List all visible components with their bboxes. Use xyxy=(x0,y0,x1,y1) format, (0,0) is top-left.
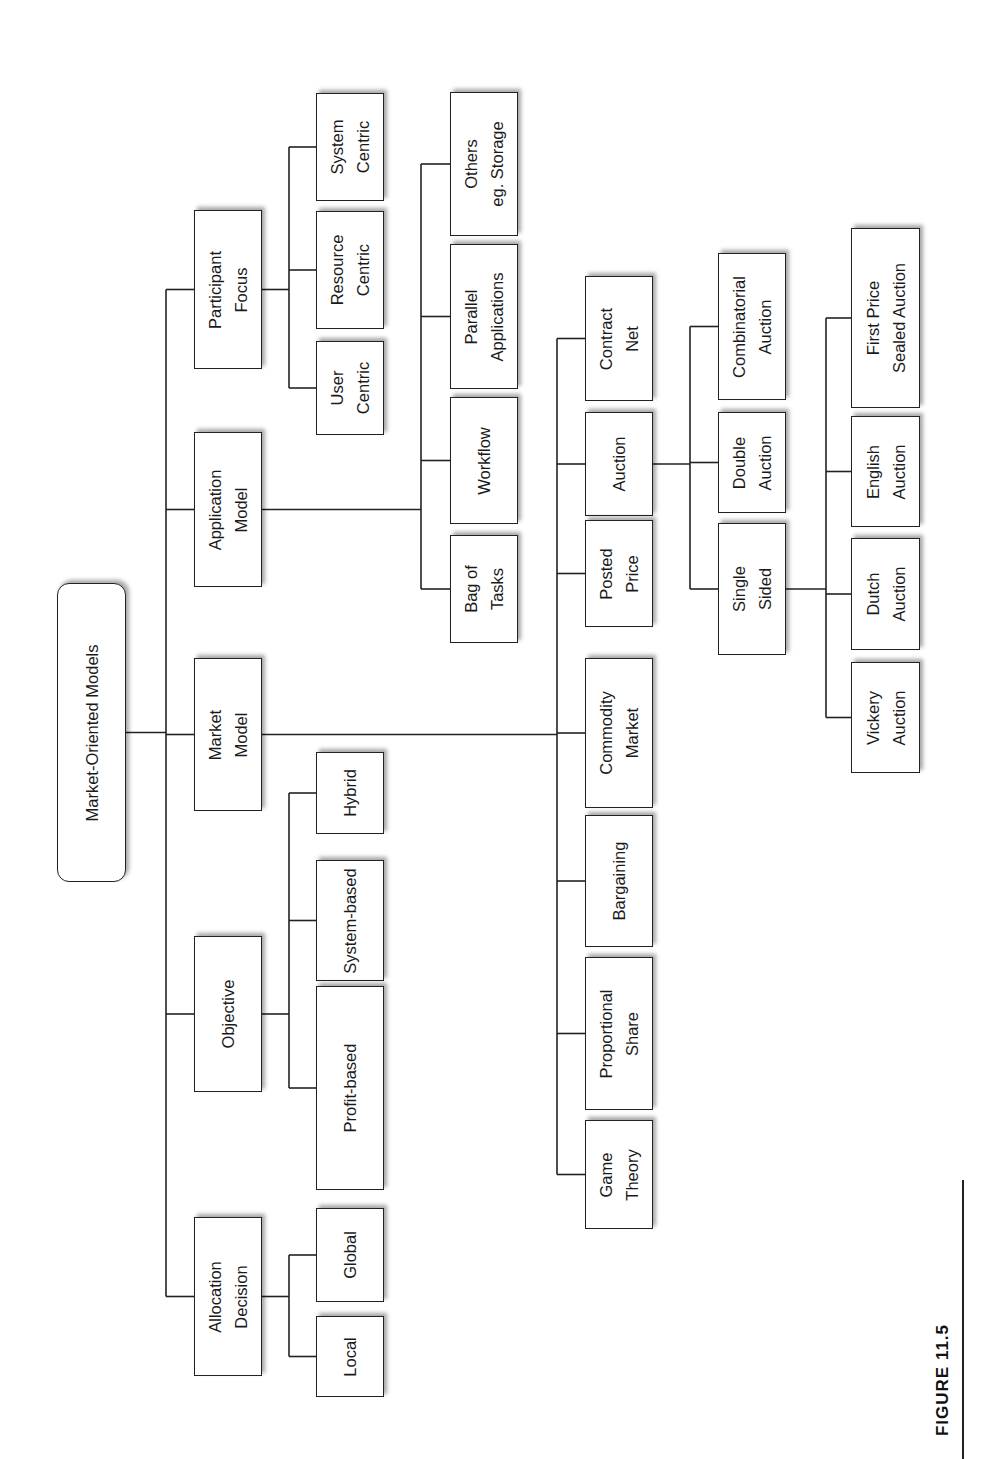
node-hybrid: Hybrid xyxy=(316,752,384,834)
node-profit-based: Profit-based xyxy=(316,986,384,1190)
node-label: Posted Price xyxy=(593,548,645,599)
node-proportional-share: Proportional Share xyxy=(585,957,653,1110)
node-system-based: System-based xyxy=(316,860,384,981)
node-label: First Price Sealed Auction xyxy=(860,263,912,373)
node-label: Bargaining xyxy=(606,842,632,921)
node-label: Local xyxy=(337,1337,363,1376)
node-application-model: Application Model xyxy=(194,432,262,587)
node-label: English Auction xyxy=(860,444,912,499)
node-dutch-auction: Dutch Auction xyxy=(851,538,920,650)
node-label: Single Sided xyxy=(726,566,778,612)
node-user-centric: User Centric xyxy=(316,341,384,435)
node-local: Local xyxy=(316,1316,384,1397)
node-label: Market-Oriented Models xyxy=(79,644,105,821)
node-label: Contract Net xyxy=(593,307,645,369)
node-resource-centric: Resource Centric xyxy=(316,211,384,329)
node-game-theory: Game Theory xyxy=(585,1120,653,1229)
node-label: Objective xyxy=(215,980,241,1049)
node-label: Bag of Tasks xyxy=(458,565,510,613)
node-label: Global xyxy=(337,1231,363,1279)
figure-caption: FIGURE 11.5 xyxy=(933,1324,953,1436)
node-root: Market-Oriented Models xyxy=(57,583,126,882)
node-commodity-market: Commodity Market xyxy=(585,658,653,808)
node-others-storage: Others eg. Storage xyxy=(450,92,518,236)
node-label: Market Model xyxy=(202,709,254,759)
node-label: System Centric xyxy=(324,119,376,174)
node-double-auction: Double Auction xyxy=(718,412,786,513)
node-label: Others eg. Storage xyxy=(458,121,510,206)
node-first-price-sealed-auction: First Price Sealed Auction xyxy=(851,228,920,408)
node-label: Dutch Auction xyxy=(860,566,912,621)
node-label: Vickery Auction xyxy=(860,690,912,745)
node-label: Double Auction xyxy=(726,435,778,490)
node-allocation-decision: Allocation Decision xyxy=(194,1217,262,1376)
node-combinatorial-auction: Combinatorial Auction xyxy=(718,253,786,400)
node-label: Parallel Applications xyxy=(458,272,510,361)
node-label: Application Model xyxy=(202,469,254,550)
node-label: Allocation Decision xyxy=(202,1261,254,1333)
node-posted-price: Posted Price xyxy=(585,520,653,627)
node-label: System-based xyxy=(337,868,363,973)
node-parallel-applications: Parallel Applications xyxy=(450,244,518,389)
node-global: Global xyxy=(316,1208,384,1302)
node-label: Commodity Market xyxy=(593,691,645,774)
node-label: Participant Focus xyxy=(202,251,254,329)
node-label: Game Theory xyxy=(593,1149,645,1200)
node-label: Profit-based xyxy=(337,1044,363,1133)
node-english-auction: English Auction xyxy=(851,416,920,527)
node-objective: Objective xyxy=(194,936,262,1092)
node-contract-net: Contract Net xyxy=(585,276,653,401)
node-single-sided: Single Sided xyxy=(718,523,786,655)
node-label: User Centric xyxy=(324,362,376,414)
node-system-centric: System Centric xyxy=(316,93,384,201)
node-workflow: Workflow xyxy=(450,397,518,524)
node-vickery-auction: Vickery Auction xyxy=(851,662,920,773)
node-label: Hybrid xyxy=(337,769,363,817)
node-label: Proportional Share xyxy=(593,989,645,1078)
node-label: Combinatorial Auction xyxy=(726,276,778,378)
node-auction: Auction xyxy=(585,412,653,516)
node-bag-of-tasks: Bag of Tasks xyxy=(450,535,518,643)
figure-rule xyxy=(962,1180,964,1459)
node-label: Resource Centric xyxy=(324,235,376,306)
node-market-model: Market Model xyxy=(194,658,262,811)
node-participant-focus: Participant Focus xyxy=(194,210,262,369)
node-bargaining: Bargaining xyxy=(585,815,653,947)
node-label: Auction xyxy=(606,436,632,491)
node-label: Workflow xyxy=(471,427,497,495)
